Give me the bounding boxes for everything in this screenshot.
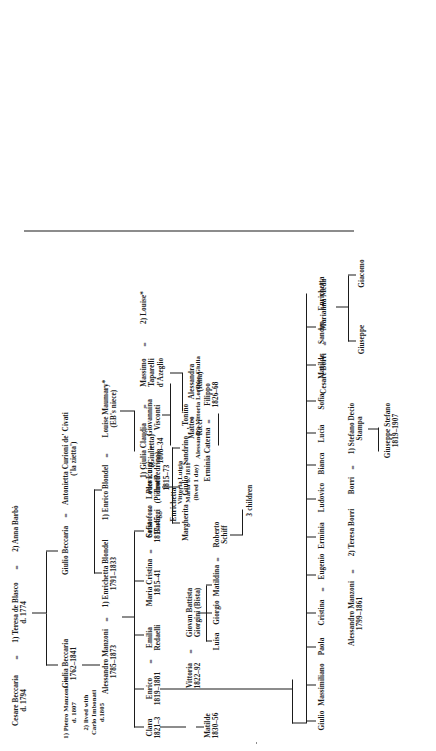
node-margherita: Margherita [182,499,190,545]
node-alessandro-manzoni-2: Alessandro Manzoni 1799–1861 [348,575,365,651]
line-h-maumary-across [134,410,135,451]
label-clara: Clara [146,718,154,736]
marriage-eq-pier-luigi: = [147,445,156,449]
drop-child-6 [306,498,316,499]
line-v-g1-g2 [32,612,46,613]
node-giulia-beccaria: Giulia Beccaria 1762–1841 [62,631,79,695]
drop-sandrino [172,447,180,448]
node-giovannina-visconti: Giovannina Visconti [146,393,163,441]
line-v-blondel-left [94,572,102,573]
node-child-erminia: Erminia [318,515,326,555]
line-v-maumary-down [120,410,134,411]
line-v-to-giulio [46,550,58,551]
drop-pier-luigi [134,580,144,581]
line-v-alessandro-children [122,616,134,617]
drop-child-3 [306,612,316,613]
drop-child-10 [306,364,316,365]
drop-giorgio [206,612,212,613]
line-h-pierluigi [170,383,171,445]
dates-sofia: 1817–45 [154,516,162,542]
marriage-eq-eugenio: = [319,587,328,591]
line-v-enrico-to-bar [160,688,256,689]
line-h-borri-children [348,275,349,341]
line-h-blondel-sibs [94,489,95,573]
line-v-pierluigi-down [162,414,170,415]
node-vittoria: Vittoria 1822–92 [186,653,203,697]
node-erminia-caterna: Erminia Caterna [204,423,212,485]
drop-matildina [206,584,212,585]
node-child-ludovico: Ludovico [318,475,326,519]
node-emilia-redaelli: Emilia Redaelli [146,617,163,657]
family-tree-diagram: Cesare Beccaria d. 1794 = 1) Teresa de B… [0,0,436,751]
node-louise: 2) Louise* [140,277,148,337]
node-teresa-de-blasco: 1) Teresa de Blasco d. 1774 [12,575,29,649]
node-tonino: , Tonino [182,397,190,435]
drop-giacomo [348,274,356,275]
node-filippo: Filippo 1826–68 [204,373,221,415]
marriage-eq-vittoria: = [187,649,196,653]
line-h-schiff [242,509,243,535]
drop-child-4 [306,574,316,575]
line-v-blondel-right [94,489,102,490]
marriage-eq-2: = [13,565,22,569]
node-stefano-decio-stampa: 1) Stefano Decio Stampa [348,395,365,461]
node-maria-cristina: Maria Cristina1815–41 [146,553,163,611]
marriage-eq-stefano: = [349,465,358,469]
label-sofia: Sofia [146,521,154,537]
node-luisa: Luisa [213,625,221,657]
node-giulio-trotti: Giulio [182,469,190,501]
node-alessandro-manzoni: Alessandro Manzoni 1785–1873 [102,623,119,699]
node-massimo-dazeglio: Massimo Taparelli d'Azeglio [140,345,165,399]
tree-canvas: Cesare Beccaria d. 1794 = 1) Teresa de B… [0,0,436,751]
label-maria-cristina: Maria Cristina [146,558,154,606]
node-giulio-beccaria: Giulio Beccaria [62,521,70,579]
line-h-g1-g2-right [46,551,47,613]
node-enrico-blondel: 1) Enrico Blondel [102,459,110,525]
node-antonietta-curioni: Antonietta Curioni de' Civati ('la ziett… [62,409,79,507]
node-giuseppe-stefano: Giuseppe Stefano 1819–1907 [384,395,401,465]
node-lodovico-trotti: Lodovico Trotti [146,464,163,504]
node-child-massimiliano: Massimiliano [318,657,326,711]
drop-child-8 [306,432,316,433]
drop-child-5 [306,536,316,537]
drop-clara [134,726,144,727]
dates-maria-cristina: 1815–41 [154,569,162,595]
drop-child-0 [306,720,316,721]
line-h-enrico-connector [292,679,293,723]
node-alessandra-vittoria-lorenzo-giulia: Alessandra Vittoria Lorenzo Giulia [194,351,202,463]
marriage-eq-enrico: = [147,659,156,663]
line-h-filippo [218,413,219,445]
node-matildina: Matildina [213,561,221,599]
label-enrico: Enrico [146,677,154,698]
drop-enrico [134,688,144,689]
node-giuseppe: Giuseppe [358,317,366,361]
node-matilde: Matilde 1830–56 [204,703,221,747]
line-v-enrico-drop [256,688,292,689]
line-v-giorgini-down [198,612,206,613]
drop-luisa [206,640,212,641]
node-child-cristina: Cristina [318,591,326,633]
node-marianna-meda: Marianna Meda [320,271,328,337]
node-roberto-schiff: Roberto Schiff [213,514,230,554]
marriage-eq-filippo: = [205,419,214,423]
line-v-right-separator [24,230,354,231]
marriage-eq-alessandro-2: = [349,569,358,573]
line-h-children-bar [134,531,135,727]
line-v-azeglio-down [170,372,182,373]
node-cesare-borri: Cesare Borri [320,347,328,399]
node-child-paola: Paola [318,629,326,663]
node-anna-barbo: 2) Anna Barbò [12,497,20,559]
node-enrichetta-blondel: 1) Enrichetta Blondel 1791–1833 [102,535,119,611]
line-h-stampa [378,427,379,451]
marriage-eq-marianna: = [321,341,330,345]
marriage-eq-alessandro-1: = [103,617,112,621]
drop-giuseppe [348,340,356,341]
drop-child-9 [306,400,316,401]
marriage-eq-matildina: = [214,557,223,561]
node-three-children: 3 children [246,477,254,523]
node-child-lucia: Lucia [318,417,326,449]
marriage-eq-massimo: = [141,342,150,346]
drop-child-7 [306,464,316,465]
node-enrichetta-mid: Enrichetta [170,481,178,527]
line-v-to-giulia [46,664,58,665]
